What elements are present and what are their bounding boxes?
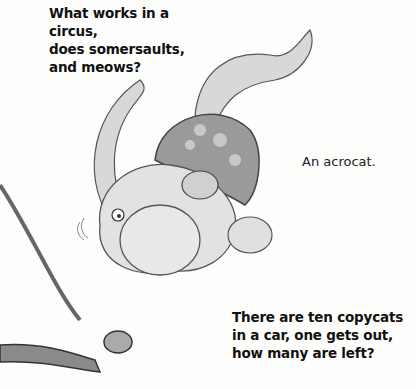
trapeze-bar-icon: [0, 344, 100, 372]
cat-acrobat-illustration: [0, 0, 416, 389]
trapeze-rope-icon: [0, 185, 80, 320]
